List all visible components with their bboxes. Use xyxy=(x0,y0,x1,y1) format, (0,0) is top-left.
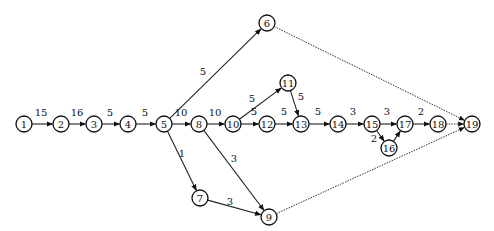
node-11: 11 xyxy=(280,75,296,91)
node-7: 7 xyxy=(192,190,208,206)
node-18: 18 xyxy=(430,116,446,132)
edge-label-12-13: 5 xyxy=(281,106,287,117)
nodes-layer: 12345678910111213141516171819 xyxy=(16,15,480,225)
edge-8-9 xyxy=(204,130,264,210)
edge-labels-layer: 15165551011035555533223 xyxy=(35,66,425,207)
node-1: 1 xyxy=(16,116,32,132)
node-5: 5 xyxy=(156,116,172,132)
node-label: 3 xyxy=(91,119,97,130)
edge-label-10-11: 5 xyxy=(249,93,255,104)
network-diagram: 15165551011035555533223 1234567891011121… xyxy=(0,0,494,231)
edge-label-13-14: 5 xyxy=(315,106,321,117)
edge-5-7 xyxy=(167,131,196,190)
edge-label-15-16: 2 xyxy=(371,133,377,144)
edge-7-9 xyxy=(208,200,261,215)
node-6: 6 xyxy=(259,15,275,31)
node-label: 17 xyxy=(399,119,412,130)
edge-label-8-10: 10 xyxy=(209,107,222,118)
node-label: 18 xyxy=(432,119,445,130)
node-label: 6 xyxy=(264,18,270,29)
node-label: 13 xyxy=(295,119,308,130)
node-label: 7 xyxy=(197,193,203,204)
edge-label-7-9: 3 xyxy=(227,196,233,207)
edge-label-8-9: 3 xyxy=(231,153,237,164)
edge-label-11-13: 5 xyxy=(298,91,304,102)
edge-16-17 xyxy=(393,131,400,141)
node-3: 3 xyxy=(86,116,102,132)
edge-label-17-18: 2 xyxy=(418,106,424,117)
node-label: 1 xyxy=(21,119,27,130)
node-16: 16 xyxy=(381,140,397,156)
node-10: 10 xyxy=(225,116,241,132)
edge-label-5-6: 5 xyxy=(200,66,206,77)
edge-label-10-12: 5 xyxy=(251,106,257,117)
node-12: 12 xyxy=(259,116,275,132)
node-label: 5 xyxy=(161,119,167,130)
node-label: 9 xyxy=(266,212,272,223)
node-14: 14 xyxy=(330,116,346,132)
node-9: 9 xyxy=(261,209,277,225)
node-label: 14 xyxy=(332,119,345,130)
node-4: 4 xyxy=(120,116,136,132)
node-15: 15 xyxy=(364,116,380,132)
edge-label-3-4: 5 xyxy=(107,107,113,118)
node-2: 2 xyxy=(53,116,69,132)
node-label: 11 xyxy=(282,78,295,89)
node-label: 12 xyxy=(261,119,274,130)
edge-label-1-2: 15 xyxy=(35,107,48,118)
node-label: 15 xyxy=(366,119,379,130)
edge-label-4-5: 5 xyxy=(142,107,148,118)
node-label: 16 xyxy=(383,143,396,154)
edge-label-5-8: 10 xyxy=(175,107,188,118)
edge-label-5-7: 1 xyxy=(179,148,185,159)
edge-5-6 xyxy=(170,29,261,118)
edge-15-16 xyxy=(377,131,384,142)
node-13: 13 xyxy=(293,116,309,132)
node-8: 8 xyxy=(191,116,207,132)
node-label: 10 xyxy=(227,119,240,130)
edge-label-2-3: 16 xyxy=(71,107,84,118)
node-17: 17 xyxy=(397,116,413,132)
edge-10-11 xyxy=(239,88,281,119)
edge-label-14-15: 3 xyxy=(350,106,356,117)
edge-label-15-17: 3 xyxy=(384,106,390,117)
node-label: 2 xyxy=(58,119,64,130)
node-label: 4 xyxy=(125,119,131,130)
node-label: 19 xyxy=(466,119,479,130)
node-19: 19 xyxy=(464,116,480,132)
edge-6-19 xyxy=(274,27,464,121)
node-label: 8 xyxy=(196,119,202,130)
